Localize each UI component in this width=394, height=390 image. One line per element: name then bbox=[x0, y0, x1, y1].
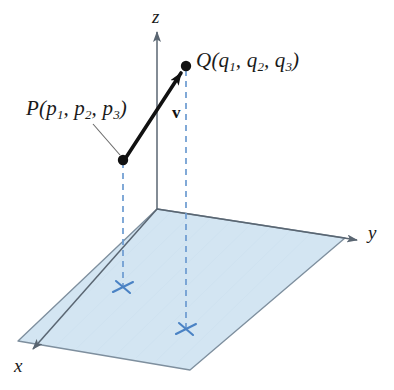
p-coord-2: p bbox=[74, 96, 85, 120]
vector-3d-diagram: z y x P(p1, p2, p3) Q(q1, q2, q3) v bbox=[0, 0, 394, 390]
q-coord-1: q bbox=[219, 48, 230, 72]
p-coord-3: p bbox=[102, 96, 113, 120]
z-axis-label: z bbox=[152, 6, 159, 28]
comma-1: , bbox=[63, 96, 74, 120]
paren-close: ) bbox=[292, 48, 299, 72]
p-coord-1: p bbox=[46, 96, 57, 120]
point-q-label: Q(q1, q2, q3) bbox=[196, 48, 299, 75]
point-p-name: P bbox=[26, 96, 39, 120]
point-q-name: Q bbox=[196, 48, 211, 72]
point-p-dot bbox=[118, 155, 128, 165]
paren-close: ) bbox=[120, 96, 127, 120]
comma-2: , bbox=[264, 48, 275, 72]
x-axis-label: x bbox=[14, 355, 22, 377]
comma-2: , bbox=[92, 96, 103, 120]
paren-open: ( bbox=[211, 48, 218, 72]
point-p-label: P(p1, p2, p3) bbox=[26, 96, 127, 123]
p-label-leader bbox=[93, 124, 120, 155]
q-coord-3: q bbox=[275, 48, 286, 72]
xy-plane bbox=[18, 209, 345, 370]
y-axis-label: y bbox=[368, 222, 376, 244]
point-q-dot bbox=[181, 61, 191, 71]
vector-v-label: v bbox=[172, 103, 181, 123]
comma-1: , bbox=[236, 48, 247, 72]
q-coord-2: q bbox=[247, 48, 258, 72]
